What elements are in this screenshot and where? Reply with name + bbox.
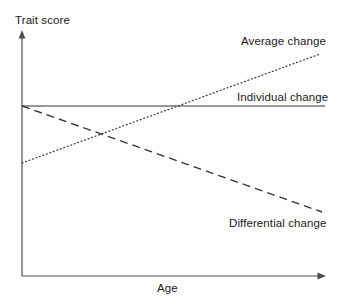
y-axis-arrowhead <box>19 30 26 39</box>
series-label-average-change: Average change <box>241 35 326 48</box>
series-label-differential-change: Differential change <box>229 217 327 230</box>
y-axis-label: Trait score <box>15 14 70 27</box>
series-line-differential-change <box>22 106 322 212</box>
series-label-individual-change: Individual change <box>237 91 328 104</box>
series-line-average-change <box>22 54 320 163</box>
x-axis-arrowhead <box>318 273 327 280</box>
x-axis-label: Age <box>157 282 178 295</box>
chart-figure: Trait score Age Average change Individua… <box>0 0 339 306</box>
